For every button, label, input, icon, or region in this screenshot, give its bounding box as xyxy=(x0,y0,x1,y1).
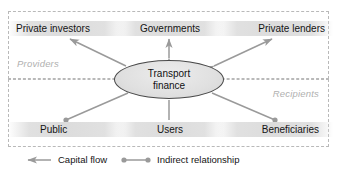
connector-private-investors xyxy=(70,39,126,66)
legend-label-capital-flow: Capital flow xyxy=(58,154,107,165)
node-label-governments: Governments xyxy=(140,23,200,34)
node-beneficiaries: Beneficiaries xyxy=(216,122,333,137)
node-users: Users xyxy=(116,122,224,137)
node-label-public: Public xyxy=(40,124,67,135)
connector-private-lenders xyxy=(214,39,272,66)
indirect-relationship-line-icon xyxy=(121,155,151,165)
node-label-users: Users xyxy=(157,124,183,135)
legend: Capital flow Indirect relationship xyxy=(22,154,240,165)
node-public: Public xyxy=(8,122,126,137)
node-label-private-investors: Private investors xyxy=(16,23,90,34)
center-node-line-2: finance xyxy=(153,80,185,92)
node-label-beneficiaries: Beneficiaries xyxy=(262,124,319,135)
capital-flow-arrow-icon xyxy=(22,155,52,165)
node-private-investors: Private investors xyxy=(8,21,126,36)
center-node-transport-finance: Transport finance xyxy=(114,60,224,99)
transport-finance-diagram: Providers Recipients Private investors G… xyxy=(0,0,337,176)
node-private-lenders: Private lenders xyxy=(216,21,333,36)
zone-label-providers: Providers xyxy=(17,58,59,69)
connector-public xyxy=(66,93,128,120)
node-label-private-lenders: Private lenders xyxy=(258,23,325,34)
zone-label-recipients: Recipients xyxy=(273,88,319,99)
legend-item-capital-flow: Capital flow xyxy=(22,154,107,165)
node-governments: Governments xyxy=(116,21,224,36)
legend-item-indirect-relationship: Indirect relationship xyxy=(121,154,239,165)
connector-beneficiaries xyxy=(212,93,275,120)
legend-label-indirect-relationship: Indirect relationship xyxy=(157,154,239,165)
center-node-line-1: Transport xyxy=(148,68,190,80)
